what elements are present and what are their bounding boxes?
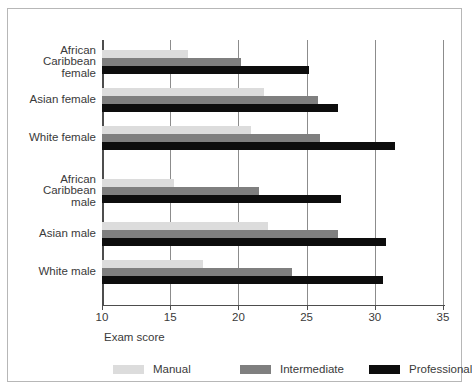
bar-manual	[102, 179, 174, 187]
legend-item-intermediate[interactable]: Intermediate	[240, 362, 344, 376]
x-axis-title: Exam score	[104, 331, 165, 343]
legend-item-professional[interactable]: Professional	[369, 362, 472, 376]
manual-swatch	[113, 365, 144, 374]
bar-professional	[102, 66, 309, 74]
legend-label: Manual	[153, 363, 191, 375]
x-tick-label: 25	[300, 311, 313, 323]
legend-label: Intermediate	[280, 363, 344, 375]
x-tick-label: 10	[96, 311, 109, 323]
bar-professional	[102, 276, 383, 284]
x-tick-mark	[443, 306, 444, 310]
legend-item-manual[interactable]: Manual	[113, 362, 191, 376]
category-label: White male	[8, 266, 96, 278]
category-label: Asian male	[8, 228, 96, 240]
bar-intermediate	[102, 96, 318, 104]
x-tick-label: 15	[164, 311, 177, 323]
bar-intermediate	[102, 230, 338, 238]
chart-legend: ManualIntermediateProfessional	[102, 362, 447, 376]
x-tick-mark	[307, 306, 308, 310]
bar-manual	[102, 260, 203, 268]
legend-label: Professional	[409, 363, 472, 375]
category-label: African Caribbean female	[8, 45, 96, 80]
bar-professional	[102, 238, 386, 246]
x-axis-line	[102, 305, 445, 306]
x-tick-label: 20	[232, 311, 245, 323]
professional-swatch	[369, 365, 400, 374]
bar-manual	[102, 88, 264, 96]
bar-intermediate	[102, 268, 292, 276]
x-tick-label: 35	[437, 311, 450, 323]
gridline	[375, 40, 376, 305]
bar-manual	[102, 50, 188, 58]
bar-intermediate	[102, 58, 241, 66]
category-label: White female	[8, 132, 96, 144]
gridline	[238, 40, 239, 305]
x-tick-mark	[238, 306, 239, 310]
chart-frame: 101520253035 African Caribbean femaleAsi…	[7, 8, 462, 382]
category-label: Asian female	[8, 94, 96, 106]
bar-professional	[102, 142, 395, 150]
category-label: African Caribbean male	[8, 174, 96, 209]
bar-manual	[102, 222, 268, 230]
x-tick-mark	[375, 306, 376, 310]
gridline	[443, 40, 444, 305]
intermediate-swatch	[240, 365, 271, 374]
x-tick-mark	[102, 306, 103, 310]
bar-manual	[102, 126, 251, 134]
bar-intermediate	[102, 187, 259, 195]
bar-intermediate	[102, 134, 320, 142]
gridline	[307, 40, 308, 305]
bar-professional	[102, 195, 341, 203]
x-tick-label: 30	[368, 311, 381, 323]
x-tick-mark	[170, 306, 171, 310]
bar-professional	[102, 104, 338, 112]
